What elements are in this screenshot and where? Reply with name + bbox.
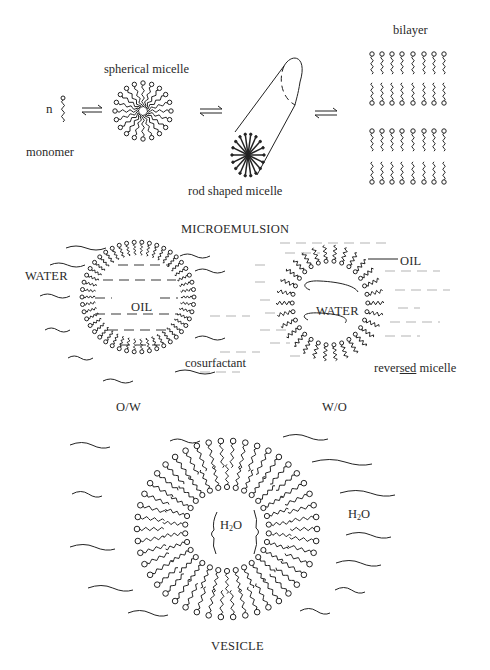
- water-core-label: WATER: [316, 305, 359, 318]
- wo-surfactant: [281, 318, 298, 328]
- water-wave: [103, 379, 133, 383]
- wo-surfactant: [365, 289, 383, 296]
- wo-surfactant: [302, 253, 313, 269]
- ow-surfactant: [181, 302, 196, 306]
- ow-surfactant: [125, 241, 130, 256]
- water-wave: [195, 269, 225, 273]
- bilayer-upper-molecule: [442, 129, 446, 151]
- vesicle-inner-lipid: [163, 531, 188, 537]
- left-brace: [212, 512, 218, 554]
- bilayer-lower-molecule: [370, 162, 374, 184]
- ow-surfactant: [179, 280, 194, 286]
- bilayer-upper-molecule: [422, 52, 426, 74]
- wo-surfactant: [340, 248, 348, 265]
- vesicle-inner-lipid: [212, 466, 220, 491]
- vesicle-outer-lipid: [138, 502, 167, 512]
- ow-surfactant: [157, 334, 166, 348]
- vesicle-outer-lipid: [263, 454, 281, 479]
- equilibrium-arrows: [200, 106, 222, 116]
- wo-surfactant: [323, 343, 328, 361]
- wo-surfactant: [323, 245, 328, 263]
- vesicle-outer-lipid: [290, 514, 319, 522]
- vesicle-outer-lipid: [138, 545, 167, 556]
- vesicle-inner-lipid: [249, 560, 265, 581]
- micelle-molecule: [147, 109, 173, 113]
- reversed-micelle-label: reversed micelle: [374, 362, 456, 375]
- bilayer-lower-molecule: [442, 83, 446, 105]
- bilayer-upper-molecule: [411, 52, 415, 74]
- ow-surfactant: [104, 250, 114, 263]
- vesicle-inner-lipid: [179, 555, 198, 573]
- vesicle-inner-lipid: [201, 565, 213, 588]
- ow-surfactant: [81, 288, 96, 292]
- water-wave: [88, 586, 133, 592]
- bilayer-upper-molecule: [442, 52, 446, 74]
- ow-surfactant: [175, 266, 188, 275]
- ow-surfactant: [181, 295, 196, 299]
- bilayer-lower-molecule: [432, 83, 436, 105]
- micelle-molecule: [141, 81, 145, 107]
- wo-surfactant: [363, 278, 380, 288]
- water-wave: [335, 588, 365, 594]
- wo-surfactant: [303, 337, 313, 353]
- micelle-molecule: [113, 109, 139, 113]
- ow-surfactant: [146, 241, 151, 256]
- bilayer-upper-molecule: [411, 129, 415, 151]
- bilayer-lower-molecule: [411, 162, 415, 184]
- vesicle-inner-lipid: [224, 464, 229, 489]
- water-wave: [50, 263, 85, 267]
- wo-surfactant: [363, 318, 380, 327]
- vesicle-outer-lipid: [285, 554, 312, 567]
- vesicle-inner-lipid: [163, 521, 188, 527]
- water-wave: [45, 328, 70, 332]
- wo-surfactant: [312, 248, 320, 265]
- spherical-micelle-label: spherical micelle: [104, 63, 189, 76]
- ow-surfactant: [93, 323, 105, 333]
- equilibrium-arrows: [82, 105, 102, 115]
- wo-surfactant: [353, 260, 366, 274]
- ow-surfactant: [81, 302, 96, 307]
- water-wave: [66, 246, 106, 250]
- oil-continuous-label: OIL: [400, 255, 421, 268]
- water-wave: [72, 492, 102, 498]
- bilayer-lower-molecule: [400, 162, 404, 184]
- vesicle-outer-lipid: [230, 438, 236, 467]
- micelle-molecule: [144, 82, 154, 107]
- rod-micelle: [231, 58, 302, 177]
- ow-surfactant: [140, 339, 144, 354]
- ow-surfactant: [88, 318, 101, 327]
- bilayer-upper-molecule: [422, 129, 426, 151]
- water-wave: [170, 439, 200, 443]
- bilayer-lower-molecule: [422, 83, 426, 105]
- right-brace: [254, 510, 259, 554]
- ow-surfactant: [110, 334, 118, 348]
- ow-surfactant: [85, 273, 99, 280]
- ow-surfactant: [181, 288, 196, 293]
- wo-surfactant: [365, 310, 383, 316]
- bilayer-lower-molecule: [390, 83, 394, 105]
- wo-surfactant: [281, 279, 298, 288]
- oil-in-water-label: O/W: [116, 401, 141, 414]
- bilayer-1: [370, 52, 446, 105]
- ow-surfactant: [177, 314, 191, 321]
- wo-surfactant: [347, 253, 357, 269]
- vesicle-outer-lipid: [206, 440, 215, 469]
- bilayer-lower-molecule: [400, 83, 404, 105]
- vesicle-inner-lipid: [200, 470, 213, 493]
- bilayer-upper-molecule: [390, 52, 394, 74]
- vesicle-inner-lipid: [224, 568, 229, 593]
- ow-surfactant: [162, 331, 172, 344]
- vesicle-outer-lipid: [256, 584, 272, 611]
- vesicle-inner-lipid: [189, 477, 205, 498]
- water-wave: [70, 545, 115, 551]
- ow-surfactant: [117, 243, 124, 257]
- micelle-molecule: [147, 112, 172, 122]
- vesicle-outer-lipid: [230, 590, 236, 619]
- water-wave: [346, 533, 391, 539]
- wo-surfactant: [293, 260, 306, 274]
- cosurfactant-label: cosurfactant: [185, 357, 246, 370]
- wo-surfactant: [366, 301, 384, 305]
- wo-surfactant: [313, 341, 321, 358]
- wo-surfactant: [340, 341, 348, 358]
- monomer-count-label: n: [46, 102, 53, 115]
